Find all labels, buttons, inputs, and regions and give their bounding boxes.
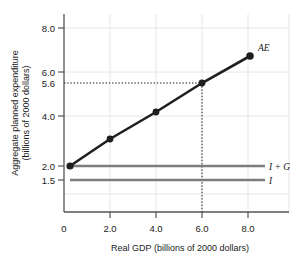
chart-canvas: 8.0 6.0 5.6 4.0 2.0 1.5 0 2.0 4.0 6.0 8.… [0, 0, 299, 269]
y-axis-title-line2: (billions of 2000 dollars) [21, 65, 31, 160]
y-tick-label-2: 2.0 [42, 161, 55, 172]
x-tick-label-2: 2.0 [103, 223, 116, 234]
y-tick-label-8: 8.0 [42, 23, 55, 34]
data-point-ae-0 [66, 162, 73, 169]
data-point-ae-4 [246, 52, 254, 60]
aggregate-expenditure-chart: 8.0 6.0 5.6 4.0 2.0 1.5 0 2.0 4.0 6.0 8.… [0, 0, 299, 269]
x-axis-title: Real GDP (billions of 2000 dollars) [111, 243, 249, 253]
y-tick-label-6: 6.0 [42, 67, 55, 78]
x-tick-label-4: 4.0 [149, 223, 162, 234]
y-axis-title-line1: Aggregate planned expenditure [10, 50, 20, 176]
data-point-ae-2 [153, 109, 160, 116]
x-tick-label-8: 8.0 [241, 223, 254, 234]
data-point-ae-3 [199, 80, 206, 87]
y-tick-label-1-5: 1.5 [42, 175, 55, 186]
y-tick-label-5-6: 5.6 [42, 78, 55, 89]
y-tick-label-4: 4.0 [42, 111, 55, 122]
y-axis-ticks [58, 28, 64, 180]
x-tick-label-0: 0 [61, 223, 66, 234]
x-axis-ticks [110, 212, 248, 218]
data-point-ae-1 [107, 136, 114, 143]
series-label-ae: AE [257, 43, 270, 53]
plot-area-background [64, 14, 289, 212]
series-label-i-plus-g: I + G [268, 162, 290, 172]
x-tick-label-6: 6.0 [195, 223, 208, 234]
